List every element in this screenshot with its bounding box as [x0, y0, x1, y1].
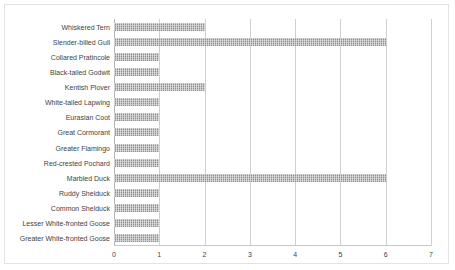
chart-frame: Whiskered TernSlender-billed GullCollare… [4, 4, 449, 264]
bar [114, 23, 205, 31]
bar [114, 38, 386, 46]
x-tick-label-1: 1 [149, 251, 169, 258]
category-label: Lesser White-fronted Goose [22, 220, 110, 227]
bar [114, 234, 159, 242]
bar [114, 204, 159, 212]
bar-row: Greater Flamingo [114, 140, 431, 155]
x-tick-label-7: 7 [421, 251, 441, 258]
bar [114, 159, 159, 167]
category-label: Black-tailed Godwit [50, 68, 110, 75]
bar [114, 53, 159, 61]
bar [114, 68, 159, 76]
bar-row: Collared Pratincole [114, 50, 431, 65]
x-axis-line [114, 245, 431, 246]
bar [114, 128, 159, 136]
bar-row: Ruddy Shelduck [114, 186, 431, 201]
x-tick-label-5: 5 [330, 251, 350, 258]
bar-row: Kentish Plover [114, 80, 431, 95]
x-tick-label-3: 3 [240, 251, 260, 258]
bar-rows: Whiskered TernSlender-billed GullCollare… [114, 19, 431, 246]
bar-row: White-tailed Lapwing [114, 95, 431, 110]
category-label: Collared Pratincole [51, 53, 110, 60]
bar-row: Slender-billed Gull [114, 34, 431, 49]
bar [114, 174, 386, 182]
category-label: Whiskered Tern [61, 23, 110, 30]
category-label: Red-crested Pochard [44, 159, 110, 166]
gridline-7 [431, 19, 432, 246]
category-label: White-tailed Lapwing [45, 99, 110, 106]
x-tick-label-2: 2 [195, 251, 215, 258]
bar [114, 113, 159, 121]
bar [114, 98, 159, 106]
category-label: Marbled Duck [67, 174, 110, 181]
category-label: Greater White-fronted Goose [20, 235, 110, 242]
bar-row: Common Shelduck [114, 201, 431, 216]
x-tick-label-0: 0 [104, 251, 124, 258]
bar-row: Black-tailed Godwit [114, 65, 431, 80]
bar-row: Great Cormorant [114, 125, 431, 140]
x-tick-label-6: 6 [376, 251, 396, 258]
bar-row: Eurasian Coot [114, 110, 431, 125]
category-label: Greater Flamingo [56, 144, 110, 151]
category-label: Great Cormorant [57, 129, 110, 136]
bar-row: Lesser White-fronted Goose [114, 216, 431, 231]
category-label: Ruddy Shelduck [59, 190, 110, 197]
bar-row: Marbled Duck [114, 171, 431, 186]
bar-row: Whiskered Tern [114, 19, 431, 34]
bar [114, 144, 159, 152]
bar-row: Greater White-fronted Goose [114, 231, 431, 246]
x-tick-label-4: 4 [285, 251, 305, 258]
bar-row: Red-crested Pochard [114, 155, 431, 170]
category-label: Slender-billed Gull [53, 38, 110, 45]
category-label: Kentish Plover [65, 84, 110, 91]
category-label: Eurasian Coot [66, 114, 110, 121]
plot-area: Whiskered TernSlender-billed GullCollare… [114, 19, 431, 246]
bar [114, 219, 159, 227]
category-label: Common Shelduck [51, 205, 110, 212]
bar [114, 83, 205, 91]
bar [114, 189, 159, 197]
